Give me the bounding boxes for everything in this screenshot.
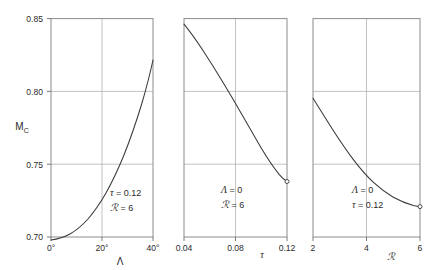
- panel-ar-annotations: Λ = 0 τ = 0.12: [351, 184, 383, 210]
- annotation-tau: τ = 0.12: [352, 199, 383, 210]
- panel-lambda-yticklabels: 0.85 0.80 0.75 0.70: [26, 14, 43, 242]
- panel-tau-annotations: Λ = 0 ℛ = 6: [220, 184, 244, 210]
- annotation-tau-value: = 0.12: [356, 200, 384, 210]
- panel-lambda-xticklabels: 0° 20° 40°: [47, 243, 160, 253]
- panel-tau-xticklabels: 0.04 0.08 0.12: [176, 243, 296, 253]
- panel-lambda-gridlines: [51, 19, 153, 237]
- y-axis-title-main: M: [15, 121, 23, 132]
- annotation-aspect-ratio: ℛ = 6: [221, 199, 244, 210]
- annotation-lambda: Λ = 0: [220, 184, 242, 195]
- panel-lambda-yticks: [47, 19, 51, 237]
- xticklabel-012: 0.12: [279, 243, 296, 253]
- xticklabel-2: 2: [311, 243, 316, 253]
- annotation-lambda-symbol: Λ: [351, 184, 358, 195]
- annotation-lambda-value: = 0: [358, 185, 373, 195]
- yticklabel-075: 0.75: [26, 160, 43, 170]
- annotation-lambda-value: = 0: [227, 185, 242, 195]
- panel-tau-xaxis-title: τ: [260, 249, 264, 260]
- xticklabel-20deg: 20°: [96, 243, 109, 253]
- panel-tau-xticks: [184, 237, 287, 241]
- yticklabel-070: 0.70: [26, 232, 43, 242]
- annotation-lambda-symbol: Λ: [220, 184, 227, 195]
- annotation-tau: τ = 0.12: [110, 187, 141, 198]
- y-axis-title-subscript: C: [24, 127, 29, 134]
- panel-ar: 2 4 6 ℛ Λ = 0 τ = 0.12: [311, 19, 423, 262]
- xticklabel-004: 0.04: [176, 243, 193, 253]
- panel-ar-endpoint-marker: [418, 205, 422, 209]
- annotation-lambda: Λ = 0: [351, 184, 373, 195]
- panel-ar-xticklabels: 2 4 6: [311, 243, 423, 253]
- xticklabel-40deg: 40°: [147, 243, 160, 253]
- yticklabel-085: 0.85: [26, 14, 43, 24]
- annotation-aspect-ratio: ℛ = 6: [110, 202, 133, 213]
- panel-ar-xticks: [313, 237, 420, 241]
- annotation-tau-value: = 0.12: [114, 188, 142, 198]
- panel-lambda: 0.85 0.80 0.75 0.70 MC 0° 20° 40° Λ τ = …: [15, 14, 159, 267]
- xticklabel-4: 4: [364, 243, 369, 253]
- panel-ar-xaxis-title: ℛ: [387, 251, 396, 262]
- panel-lambda-annotations: τ = 0.12 ℛ = 6: [110, 187, 141, 213]
- yticklabel-080: 0.80: [26, 87, 43, 97]
- panel-tau-endpoint-marker: [285, 180, 289, 184]
- panel-lambda-xticks: [51, 237, 153, 241]
- panel-tau: 0.04 0.08 0.12 τ Λ = 0 ℛ = 6: [176, 19, 296, 260]
- panel-lambda-xaxis-title: Λ: [117, 256, 124, 267]
- svg-text:MC: MC: [15, 121, 28, 134]
- xticklabel-0deg: 0°: [47, 243, 55, 253]
- xticklabel-008: 0.08: [227, 243, 244, 253]
- figure-container: 0.85 0.80 0.75 0.70 MC 0° 20° 40° Λ τ = …: [0, 0, 441, 270]
- shared-y-axis-title: MC: [15, 121, 28, 134]
- annotation-aspect-ratio-value: = 6: [229, 200, 244, 210]
- xticklabel-6: 6: [418, 243, 423, 253]
- annotation-aspect-ratio-value: = 6: [118, 203, 133, 213]
